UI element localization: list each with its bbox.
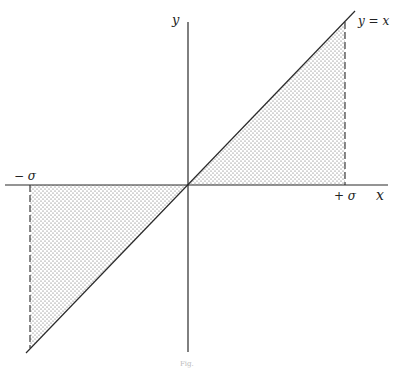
y-axis-label: y [171,12,180,27]
negative-sigma-label: − σ [14,169,37,183]
figure-caption: Fig. [180,360,194,368]
curve-label: y = x [357,14,389,28]
positive-sigma-label: + σ [334,189,357,203]
x-axis-label: x [376,187,384,203]
diagram-canvas: y y = x − σ + σ x Fig. [0,0,393,369]
